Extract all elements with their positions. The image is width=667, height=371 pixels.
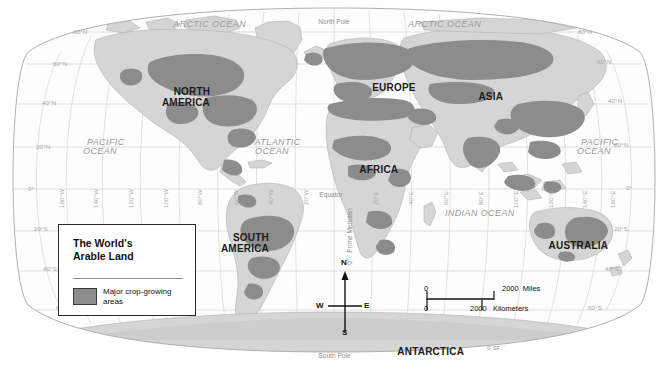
- world-map: NORTH AMERICA SOUTH AMERICA EUROPE ASIA …: [0, 0, 667, 371]
- scale-miles-zero: 0: [424, 284, 428, 293]
- compass-rose: N S W E: [322, 262, 368, 340]
- legend-swatch-label: Major crop-growing areas: [103, 287, 171, 307]
- scale-km-zero: 0: [424, 304, 428, 313]
- scale-miles-value: 2000 Miles: [502, 284, 540, 293]
- map-legend: The World's Arable Land Major crop-growi…: [58, 224, 196, 316]
- compass-west-label: W: [316, 301, 324, 310]
- scale-km-value: 2000 Kilometers: [470, 304, 528, 313]
- compass-north-label: N: [341, 258, 347, 267]
- compass-east-label: E: [364, 301, 369, 310]
- legend-title: The World's Arable Land: [73, 237, 134, 264]
- copyright-mark: © SF: [487, 345, 500, 351]
- compass-south-label: S: [342, 328, 347, 337]
- legend-swatch-crop-areas: [73, 288, 97, 305]
- scale-bar: 0 2000 Miles 0 2000 Kilometers: [424, 286, 616, 322]
- legend-divider: [73, 278, 183, 279]
